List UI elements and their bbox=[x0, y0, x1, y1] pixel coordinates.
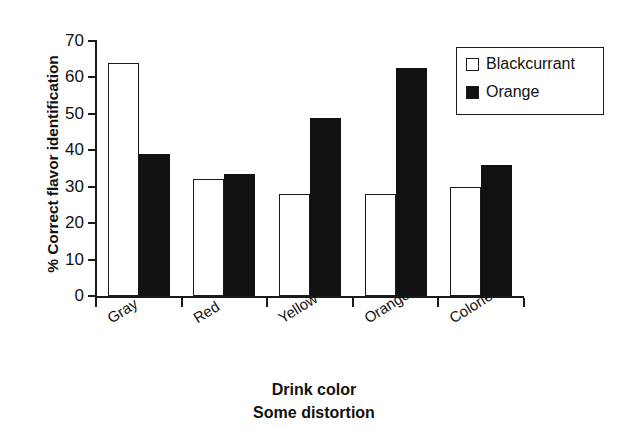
y-axis-tick-label: 10 bbox=[50, 251, 84, 268]
x-axis-category-label: Red bbox=[190, 297, 222, 326]
y-axis-tick-label: 60 bbox=[50, 68, 84, 85]
y-axis-line bbox=[95, 40, 97, 298]
bar bbox=[224, 174, 255, 296]
y-axis-tick-label: 0 bbox=[50, 287, 84, 304]
legend-swatch-filled-icon bbox=[466, 86, 479, 99]
legend-label: Blackcurrant bbox=[486, 56, 575, 72]
bar bbox=[396, 68, 427, 296]
bar-chart: % Correct flavor identification 70605040… bbox=[0, 0, 628, 441]
y-axis-tick-label: 40 bbox=[50, 141, 84, 158]
x-axis-tick bbox=[266, 298, 268, 307]
legend-item-orange: Orange bbox=[466, 84, 539, 100]
legend-item-blackcurrant: Blackcurrant bbox=[466, 56, 575, 72]
x-axis-title: Drink color bbox=[0, 381, 628, 399]
bar bbox=[310, 118, 341, 297]
legend: Blackcurrant Orange bbox=[456, 47, 604, 115]
bar bbox=[450, 187, 481, 296]
y-axis-tick-label: 70 bbox=[50, 32, 84, 49]
x-axis-tick bbox=[352, 298, 354, 307]
bar bbox=[139, 154, 170, 296]
bar bbox=[279, 194, 310, 296]
bar bbox=[365, 194, 396, 296]
x-axis-tick bbox=[437, 298, 439, 307]
y-axis-tick-label: 50 bbox=[50, 105, 84, 122]
x-axis-tick bbox=[181, 298, 183, 307]
bar bbox=[193, 179, 224, 296]
legend-label: Orange bbox=[486, 84, 539, 100]
bar bbox=[108, 63, 139, 296]
x-axis-category-label: Gray bbox=[104, 295, 141, 327]
legend-swatch-open-icon bbox=[466, 58, 479, 71]
y-axis-tick-label: 20 bbox=[50, 214, 84, 231]
x-axis-tick bbox=[523, 298, 525, 307]
x-axis-subtitle: Some distortion bbox=[0, 404, 628, 422]
y-axis-tick-label: 30 bbox=[50, 178, 84, 195]
bar bbox=[481, 165, 512, 296]
x-axis-tick bbox=[95, 298, 97, 307]
